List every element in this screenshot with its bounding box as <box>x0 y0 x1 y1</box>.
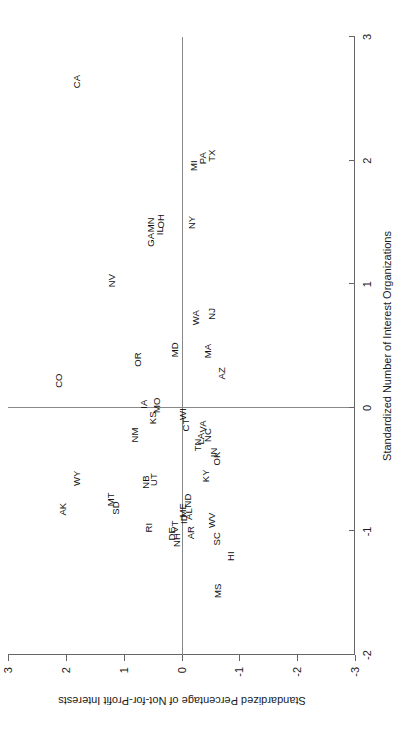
data-point-label: AZ <box>217 367 227 379</box>
x-tick-mark <box>349 160 355 161</box>
y-tick-label: 2 <box>60 667 71 673</box>
data-point-label: TN <box>193 438 203 451</box>
x-tick-label: 1 <box>362 281 373 287</box>
data-point-label: TX <box>207 149 217 161</box>
y-tick-label: 0 <box>176 667 187 673</box>
data-point-label: SC <box>212 532 222 545</box>
data-point-label: WV <box>207 513 217 529</box>
data-point-label: AK <box>58 503 68 516</box>
y-tick-label: -1 <box>234 667 245 677</box>
x-tick-mark <box>349 283 355 284</box>
plot-area: -2-10123 -3-2-10123 CAMIPATXNYGAILMNOHNV… <box>8 37 355 655</box>
y-zero-reference-line <box>182 37 183 655</box>
data-point-label: WA <box>191 310 201 325</box>
chart-figure: -2-10123 -3-2-10123 CAMIPATXNYGAILMNOHNV… <box>0 0 410 730</box>
y-tick-mark <box>66 655 67 661</box>
data-point-label: CO <box>54 373 64 387</box>
data-point-label: UT <box>149 473 159 486</box>
y-tick-mark <box>239 655 240 661</box>
data-point-label: CT <box>181 419 191 432</box>
y-tick-label: -3 <box>350 667 361 677</box>
data-point-label: SD <box>111 501 121 514</box>
y-tick-mark <box>297 655 298 661</box>
data-point-label: NJ <box>207 308 217 320</box>
data-point-label: MD <box>170 342 180 357</box>
x-tick-label: -1 <box>362 527 373 537</box>
data-point-label: NY <box>187 216 197 229</box>
data-point-label: NV <box>107 274 117 287</box>
data-point-label: ID <box>179 514 189 524</box>
y-tick-mark <box>355 655 356 661</box>
x-axis-spine <box>354 37 355 655</box>
data-point-label: RI <box>144 523 154 533</box>
data-point-label: WY <box>72 471 82 487</box>
x-tick-mark <box>349 36 355 37</box>
data-point-label: MA <box>203 344 213 358</box>
x-tick-label: 3 <box>362 34 373 40</box>
x-tick-mark <box>349 407 355 408</box>
x-tick-label: 2 <box>362 158 373 164</box>
y-tick-mark <box>124 655 125 661</box>
data-point-label: NH <box>172 533 182 547</box>
y-tick-label: 3 <box>3 667 14 673</box>
x-tick-label: 0 <box>362 405 373 411</box>
chart-canvas: -2-10123 -3-2-10123 CAMIPATXNYGAILMNOHNV… <box>0 0 410 730</box>
data-point-label: MS <box>213 584 223 598</box>
data-point-label: OR <box>133 352 143 366</box>
data-point-label: IA <box>139 400 149 409</box>
data-point-label: OK <box>212 452 222 466</box>
data-point-label: HI <box>226 551 236 561</box>
y-tick-mark <box>182 655 183 661</box>
data-point-label: CA <box>72 75 82 88</box>
x-axis-title: Standardized Number of Interest Organiza… <box>381 231 393 461</box>
y-tick-label: 1 <box>118 667 129 673</box>
data-point-label: KS <box>148 411 158 424</box>
x-tick-label: -2 <box>362 650 373 660</box>
y-axis-title: Standardized Percentage of Not-for-Profi… <box>58 695 306 707</box>
y-tick-mark <box>8 655 9 661</box>
data-point-label: KY <box>201 469 211 482</box>
data-point-label: NM <box>130 428 140 443</box>
data-point-label: AR <box>186 526 196 539</box>
y-tick-label: -2 <box>292 667 303 677</box>
data-point-label: OH <box>156 214 166 228</box>
x-tick-mark <box>349 530 355 531</box>
